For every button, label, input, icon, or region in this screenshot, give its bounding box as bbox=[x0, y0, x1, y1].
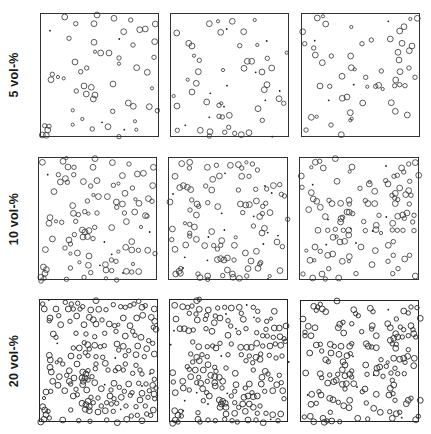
particle-circle bbox=[81, 322, 87, 328]
particle-circle bbox=[214, 369, 218, 373]
particle-circle bbox=[196, 306, 202, 312]
particle-circle bbox=[205, 164, 211, 170]
particle-circle bbox=[114, 420, 120, 426]
particle-circle bbox=[132, 302, 136, 306]
particle-circle bbox=[146, 196, 152, 202]
particle-circle bbox=[150, 407, 156, 413]
particle-circle bbox=[80, 382, 86, 388]
particle-circle bbox=[187, 166, 191, 170]
particle-circle bbox=[194, 317, 200, 323]
particle-circle bbox=[404, 112, 410, 118]
particle-circle bbox=[183, 222, 186, 225]
particle-circle bbox=[71, 346, 75, 350]
particle-circle bbox=[88, 419, 92, 423]
particle-circle bbox=[336, 400, 340, 404]
particle-circle bbox=[303, 370, 309, 376]
particle-circle bbox=[120, 343, 126, 349]
particle-circle bbox=[321, 15, 324, 18]
particle-circle bbox=[397, 185, 403, 191]
particle-dot bbox=[123, 129, 125, 131]
particle-circle bbox=[339, 367, 345, 373]
particle-circle bbox=[265, 56, 269, 60]
particle-circle bbox=[301, 272, 305, 276]
particle-circle bbox=[217, 404, 223, 410]
particle-circle bbox=[229, 342, 233, 346]
particle-circle bbox=[186, 78, 189, 81]
particle-circle bbox=[396, 372, 400, 376]
particle-circle bbox=[105, 418, 109, 422]
particle-dot bbox=[267, 232, 269, 234]
particle-circle bbox=[407, 202, 411, 206]
particle-circle bbox=[276, 419, 280, 423]
particle-circle bbox=[221, 257, 227, 263]
particle-circle bbox=[189, 352, 193, 356]
particle-circle bbox=[336, 372, 340, 376]
particle-circle bbox=[219, 238, 225, 244]
particle-circle bbox=[343, 387, 347, 391]
particle-circle bbox=[265, 319, 269, 323]
particle-circle bbox=[271, 308, 277, 314]
particle-circle bbox=[105, 124, 111, 130]
panel-r2-c2 bbox=[168, 157, 288, 280]
particle-circle bbox=[82, 275, 86, 279]
particle-dot bbox=[49, 30, 51, 32]
particle-circle bbox=[195, 69, 201, 75]
particle-plot bbox=[170, 300, 289, 423]
particle-circle bbox=[393, 398, 397, 402]
particle-circle bbox=[223, 305, 227, 309]
particle-circle bbox=[72, 173, 76, 177]
particle-circle bbox=[117, 135, 121, 139]
particle-circle bbox=[329, 123, 333, 127]
particle-circle bbox=[381, 374, 385, 378]
particle-circle bbox=[105, 401, 109, 405]
particle-circle bbox=[170, 237, 174, 241]
particle-circle bbox=[244, 359, 248, 363]
particle-circle bbox=[390, 220, 396, 226]
particle-circle bbox=[237, 275, 243, 281]
particle-circle bbox=[396, 266, 400, 270]
particle-circle bbox=[391, 271, 395, 275]
particle-circle bbox=[348, 53, 354, 59]
particle-circle bbox=[115, 278, 119, 282]
particle-circle bbox=[386, 259, 390, 263]
particle-circle bbox=[172, 94, 175, 97]
particle-circle bbox=[172, 246, 178, 252]
particle-circle bbox=[412, 213, 416, 217]
particle-dot bbox=[264, 99, 266, 101]
particle-circle bbox=[369, 262, 375, 268]
particle-circle bbox=[130, 103, 136, 109]
particle-dot bbox=[312, 184, 314, 186]
particle-circle bbox=[129, 239, 135, 245]
particle-circle bbox=[134, 363, 138, 367]
particle-circle bbox=[197, 127, 203, 133]
particle-circle bbox=[136, 200, 142, 206]
particle-circle bbox=[280, 354, 284, 358]
particle-dot bbox=[353, 84, 355, 86]
particle-circle bbox=[308, 401, 314, 407]
particle-circle bbox=[392, 108, 398, 114]
particle-circle bbox=[327, 266, 331, 270]
particle-circle bbox=[93, 335, 97, 339]
particle-circle bbox=[109, 258, 113, 262]
particle-circle bbox=[274, 356, 278, 360]
particle-circle bbox=[136, 269, 142, 275]
particle-circle bbox=[267, 353, 271, 357]
particle-circle bbox=[117, 348, 121, 352]
particle-circle bbox=[50, 331, 56, 337]
particle-circle bbox=[381, 87, 384, 90]
particle-circle bbox=[137, 381, 141, 385]
particle-circle bbox=[334, 298, 340, 304]
particle-circle bbox=[261, 344, 265, 348]
particle-circle bbox=[221, 273, 225, 277]
particle-circle bbox=[351, 381, 357, 387]
particle-circle bbox=[60, 417, 66, 423]
particle-circle bbox=[258, 381, 264, 387]
particle-circle bbox=[226, 319, 230, 323]
particle-circle bbox=[389, 371, 393, 375]
panel-r1-c1 bbox=[40, 13, 159, 137]
particle-circle bbox=[151, 351, 157, 357]
particle-circle bbox=[122, 190, 128, 196]
particle-circle bbox=[117, 62, 120, 65]
particle-dot bbox=[288, 361, 290, 363]
particle-circle bbox=[194, 212, 200, 218]
